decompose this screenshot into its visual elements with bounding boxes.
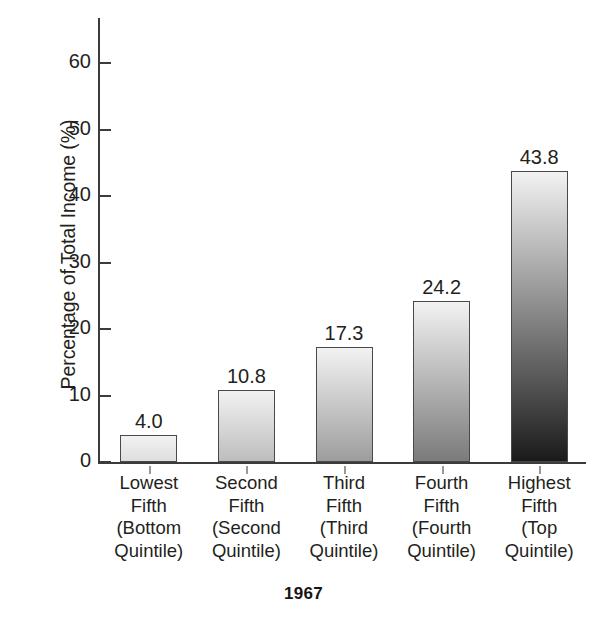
bar: 4.0 [120, 435, 177, 462]
x-axis-category-line: (Top [490, 517, 588, 540]
y-tick-50: 50 [100, 129, 111, 131]
chart-title: 1967 [0, 584, 607, 604]
y-tick-label: 50 [69, 117, 91, 139]
bar-value-label: 10.8 [227, 365, 266, 387]
plot-area: 0102030405060 4.010.817.324.243.8 [98, 18, 590, 463]
x-axis-category-label: FourthFifth(FourthQuintile) [393, 472, 491, 562]
bar-value-label: 43.8 [520, 146, 559, 168]
x-axis-category-line: (Second [198, 517, 296, 540]
y-tick-label: 60 [69, 50, 91, 72]
y-tick-40: 40 [100, 195, 111, 197]
x-axis-category-line: Third [295, 472, 393, 495]
bar: 17.3 [316, 347, 373, 462]
y-tick-label: 20 [69, 316, 91, 338]
bar: 10.8 [218, 390, 275, 462]
x-axis-labels: LowestFifth(BottomQuintile)SecondFifth(S… [98, 470, 590, 566]
x-axis-category-label: HighestFifth(TopQuintile) [490, 472, 588, 562]
x-axis-category-line: Second [198, 472, 296, 495]
bar-value-label: 24.2 [422, 276, 461, 298]
x-axis-category-line: (Bottom [100, 517, 198, 540]
x-axis-category-line: Fifth [393, 495, 491, 518]
x-axis-category-line: Quintile) [295, 540, 393, 563]
x-axis-category-line: Quintile) [198, 540, 296, 563]
x-axis-category-line: Quintile) [393, 540, 491, 563]
bar-value-label: 17.3 [325, 322, 364, 344]
y-tick-30: 30 [100, 262, 111, 264]
x-axis-category-label: SecondFifth(SecondQuintile) [198, 472, 296, 562]
y-tick-20: 20 [100, 328, 111, 330]
x-axis-category-line: Lowest [100, 472, 198, 495]
y-tick-label: 40 [69, 183, 91, 205]
x-axis-category-line: (Fourth [393, 517, 491, 540]
x-axis-category-line: Fifth [198, 495, 296, 518]
x-axis-category-label: LowestFifth(BottomQuintile) [100, 472, 198, 562]
y-tick-label: 0 [80, 449, 91, 471]
x-axis-category-line: Fourth [393, 472, 491, 495]
x-axis-category-line: Quintile) [100, 540, 198, 563]
x-axis-category-line: Fifth [100, 495, 198, 518]
x-axis-category-line: Fifth [295, 495, 393, 518]
bar-value-label: 4.0 [135, 410, 163, 432]
x-axis-category-line: Highest [490, 472, 588, 495]
bar-chart: Percentage of Total Income (%) 010203040… [0, 0, 607, 628]
y-tick-label: 10 [69, 383, 91, 405]
y-tick-0: 0 [100, 461, 111, 463]
x-axis-category-line: (Third [295, 517, 393, 540]
y-tick-60: 60 [100, 62, 111, 64]
y-tick-10: 10 [100, 395, 111, 397]
x-axis-category-label: ThirdFifth(ThirdQuintile) [295, 472, 393, 562]
x-axis-category-line: Quintile) [490, 540, 588, 563]
bar: 43.8 [511, 171, 568, 462]
bar: 24.2 [413, 301, 470, 462]
x-axis-line [98, 462, 586, 464]
x-axis-category-line: Fifth [490, 495, 588, 518]
y-tick-label: 30 [69, 250, 91, 272]
